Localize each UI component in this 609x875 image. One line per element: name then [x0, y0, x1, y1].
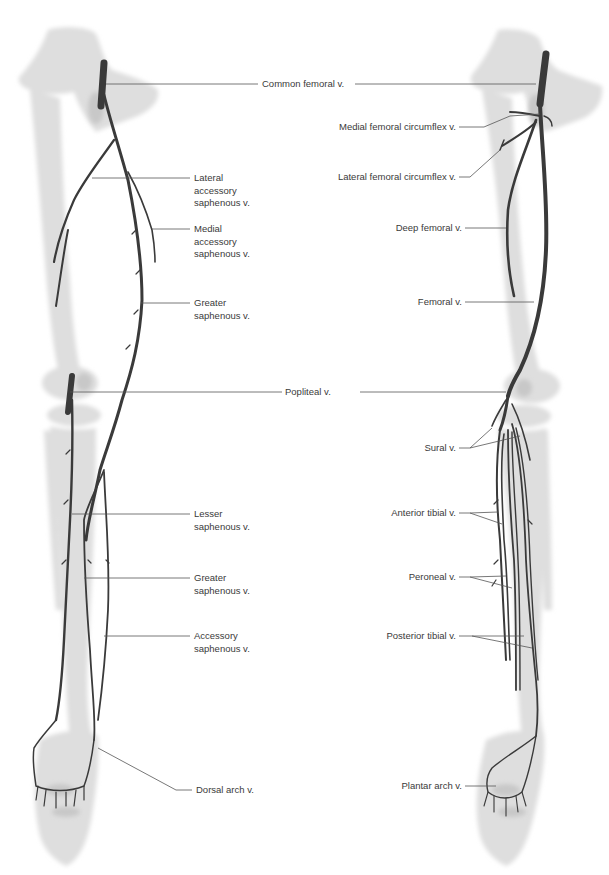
medial-accessory-saphenous-vein [128, 172, 155, 262]
label-popliteal-vein: Popliteal v. [283, 386, 333, 399]
label-greater-saphenous-vein-leg: Greater saphenous v. [194, 572, 250, 597]
label-dorsal-arch-vein: Dorsal arch v. [196, 784, 254, 797]
label-sural-vein: Sural v. [424, 442, 456, 455]
right-leg-bones [471, 29, 603, 866]
label-medial-accessory-saphenous-vein: Medial accessory saphenous v. [194, 223, 250, 261]
label-greater-saphenous-vein-thigh: Greater saphenous v. [194, 297, 250, 322]
label-femoral-vein: Femoral v. [418, 296, 462, 309]
leader-lines [70, 84, 540, 790]
label-deep-femoral-vein: Deep femoral v. [396, 222, 462, 235]
label-common-femoral-vein: Common femoral v. [260, 78, 346, 91]
label-lateral-femoral-circumflex-vein: Lateral femoral circumflex v. [338, 171, 456, 184]
accessory-saphenous-vein [98, 472, 109, 720]
label-lesser-saphenous-vein: Lesser saphenous v. [194, 508, 250, 533]
label-medial-femoral-circumflex-vein: Medial femoral circumflex v. [339, 121, 456, 134]
label-posterior-tibial-vein: Posterior tibial v. [386, 630, 456, 643]
common-femoral-vein-left [101, 63, 104, 106]
label-lateral-accessory-saphenous-vein: Lateral accessory saphenous v. [194, 172, 250, 210]
label-accessory-saphenous-vein: Accessory saphenous v. [194, 630, 250, 655]
leg-veins-diagram [0, 0, 609, 875]
label-anterior-tibial-vein: Anterior tibial v. [391, 507, 456, 520]
label-peroneal-vein: Peroneal v. [409, 571, 456, 584]
label-plantar-arch-vein: Plantar arch v. [401, 780, 462, 793]
